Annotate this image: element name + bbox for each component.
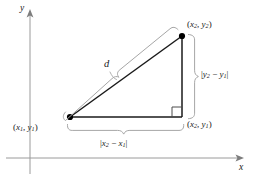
horizontal-leg-brace — [67, 125, 183, 135]
vertex-dot-p2 — [179, 33, 185, 39]
hypotenuse-segment — [70, 36, 182, 117]
right-angle-marker-icon — [172, 107, 182, 117]
d-label-leader — [110, 72, 117, 80]
paren-close: ) — [209, 119, 212, 129]
point-label-corner: (x2, y1) — [187, 120, 212, 129]
point-label-p1: (x1, y1) — [13, 123, 38, 132]
figure-canvas — [0, 0, 261, 182]
hypotenuse-label-d: d — [104, 59, 109, 70]
point-label-p2: (x2, y2) — [187, 20, 212, 29]
vertical-leg-brace — [189, 35, 199, 119]
abs-bar-close: | — [227, 69, 229, 79]
y-axis-label: y — [20, 4, 24, 14]
vertical-leg-label: |y2 − y1| — [201, 70, 228, 79]
axes-group — [6, 9, 244, 174]
triangle-group — [70, 36, 182, 117]
abs-bar-close: | — [126, 138, 128, 148]
hypotenuse-brace — [63, 27, 178, 120]
paren-close: ) — [209, 19, 212, 29]
x-axis-label: x — [239, 163, 243, 173]
horizontal-leg-label: |x2 − x1| — [100, 139, 127, 148]
paren-close: ) — [35, 122, 38, 132]
distance-formula-figure: y x (x2, y2) (x1, y1) (x2, y1) d |y2 − y… — [0, 0, 261, 182]
